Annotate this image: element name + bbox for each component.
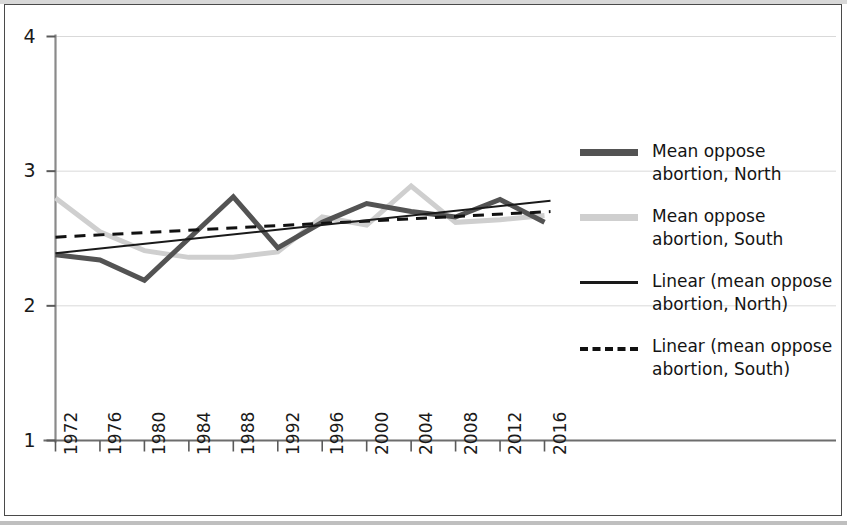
x-tick-label-1996: 1996 <box>329 411 346 454</box>
legend-mean-north-label: Mean oppose abortion, North <box>652 140 840 186</box>
x-tick-label-2008: 2008 <box>463 411 480 454</box>
y-tick-label-2: 2 <box>8 296 36 315</box>
x-tick-label-1984: 1984 <box>196 411 213 454</box>
x-tick-label-2000: 2000 <box>374 411 391 454</box>
tick-marks <box>47 37 545 452</box>
chart-legend: Mean oppose abortion, NorthMean oppose a… <box>578 140 840 400</box>
legend-mean-north-swatch <box>578 140 640 170</box>
y-tick-label-4: 4 <box>8 27 36 46</box>
legend-trend-north-line-sample <box>580 281 638 284</box>
x-tick-label-2012: 2012 <box>507 411 524 454</box>
legend-trend-north[interactable]: Linear (mean oppose abortion, North) <box>578 270 840 316</box>
legend-trend-south-swatch <box>578 335 640 365</box>
legend-mean-north[interactable]: Mean oppose abortion, North <box>578 140 840 186</box>
y-tick-label-1: 1 <box>8 431 36 450</box>
legend-trend-south-line-sample <box>580 347 638 351</box>
legend-mean-south-line-sample <box>580 214 638 221</box>
legend-mean-south-label: Mean oppose abortion, South <box>652 205 840 251</box>
legend-trend-north-label: Linear (mean oppose abortion, North) <box>652 270 840 316</box>
legend-trend-south[interactable]: Linear (mean oppose abortion, South) <box>578 335 840 381</box>
x-tick-label-1988: 1988 <box>240 411 257 454</box>
x-tick-label-1976: 1976 <box>107 411 124 454</box>
legend-trend-south-label: Linear (mean oppose abortion, South) <box>652 335 840 381</box>
legend-mean-south[interactable]: Mean oppose abortion, South <box>578 205 840 251</box>
x-tick-label-1980: 1980 <box>151 411 168 454</box>
x-tick-label-1992: 1992 <box>285 411 302 454</box>
series-line-south <box>56 186 545 257</box>
data-series-layer <box>56 186 551 280</box>
y-tick-label-3: 3 <box>8 161 36 180</box>
trendline-north <box>56 201 551 254</box>
x-tick-label-2004: 2004 <box>418 411 435 454</box>
x-tick-label-1972: 1972 <box>63 411 80 454</box>
x-tick-label-2016: 2016 <box>552 411 569 454</box>
legend-mean-north-line-sample <box>580 149 638 156</box>
figure-container: 4321 19721976198019841988199219962000200… <box>0 0 847 525</box>
legend-mean-south-swatch <box>578 205 640 235</box>
legend-trend-north-swatch <box>578 270 640 300</box>
